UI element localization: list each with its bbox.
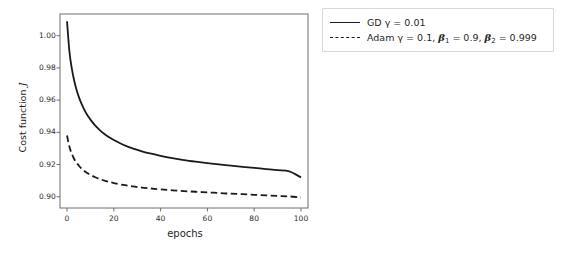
legend-gd-prefix: GD xyxy=(367,17,385,28)
figure-canvas: 0.900.920.940.960.981.00 020406080100 Co… xyxy=(0,0,564,255)
beta2-subscript: 2 xyxy=(491,37,495,45)
series-line-gd xyxy=(67,21,301,177)
legend-gd-value: = 0.01 xyxy=(390,17,425,28)
legend-adam-beta1-value: = 0.9, xyxy=(449,32,484,43)
legend-adam-beta2-value: = 0.999 xyxy=(496,32,537,43)
x-tick-label: 100 xyxy=(281,214,321,223)
plot-area: 0.900.920.940.960.981.00 020406080100 Co… xyxy=(0,0,320,255)
legend-box: GD γ = 0.01 Adam γ = 0.1, β1 = 0.9, β2 =… xyxy=(322,8,554,52)
x-tick-label: 0 xyxy=(47,214,87,223)
legend-item-adam: Adam γ = 0.1, β1 = 0.9, β2 = 0.999 xyxy=(330,30,546,45)
x-tick-label: 20 xyxy=(94,214,134,223)
y-axis-label-text: Cost function xyxy=(17,90,28,153)
beta1-subscript: 1 xyxy=(445,37,449,45)
y-tick-label: 1.00 xyxy=(18,31,56,40)
x-tick-label: 80 xyxy=(234,214,274,223)
x-tick-label: 40 xyxy=(141,214,181,223)
x-axis-label: epochs xyxy=(60,228,310,239)
legend-adam-gamma-value: = 0.1, xyxy=(403,32,438,43)
y-tick-label: 0.90 xyxy=(18,192,56,201)
x-tick-label: 60 xyxy=(187,214,227,223)
legend-line-sample-dashed xyxy=(330,32,360,44)
legend-item-gd: GD γ = 0.01 xyxy=(330,15,546,30)
y-axis-label-symbol: J xyxy=(17,83,28,87)
legend-label-gd: GD γ = 0.01 xyxy=(367,18,425,28)
y-axis-label: Cost function J xyxy=(17,63,28,173)
beta-symbol: β xyxy=(438,32,445,43)
legend-adam-prefix: Adam xyxy=(367,32,397,43)
legend-label-adam: Adam γ = 0.1, β1 = 0.9, β2 = 0.999 xyxy=(367,33,537,43)
series-line-adam xyxy=(67,136,301,198)
legend-line-sample-solid xyxy=(330,17,360,29)
